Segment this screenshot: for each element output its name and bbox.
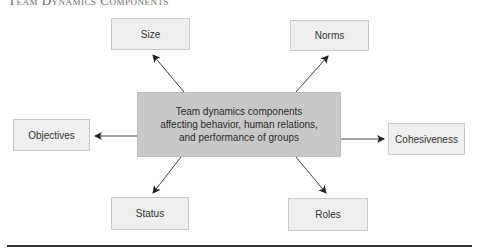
arrow-to-norms: [296, 56, 328, 92]
diagram-heading: Team Dynamics Components: [8, 0, 169, 7]
arrow-to-status: [153, 157, 181, 193]
center-line-1: Team dynamics components: [176, 105, 303, 118]
center-line-3: and performance of groups: [179, 131, 299, 144]
node-status-label: Status: [136, 208, 164, 219]
node-norms: Norms: [290, 20, 369, 51]
node-cohesiveness: Cohesiveness: [388, 123, 465, 155]
heading-clip: Team Dynamics Components: [0, 0, 230, 7]
node-status: Status: [111, 197, 189, 230]
center-line-2: affecting behavior, human relations,: [160, 118, 318, 131]
node-size-label: Size: [141, 29, 160, 40]
node-roles-label: Roles: [315, 209, 341, 220]
node-objectives: Objectives: [13, 119, 90, 151]
node-objectives-label: Objectives: [28, 130, 75, 141]
arrow-to-roles: [296, 157, 326, 193]
node-norms-label: Norms: [315, 30, 344, 41]
node-size: Size: [111, 18, 190, 50]
node-roles: Roles: [288, 198, 368, 231]
arrow-to-size: [153, 55, 184, 92]
central-concept-box: Team dynamics components affecting behav…: [137, 92, 341, 157]
bottom-rule: [7, 245, 472, 247]
node-cohesiveness-label: Cohesiveness: [395, 134, 458, 145]
